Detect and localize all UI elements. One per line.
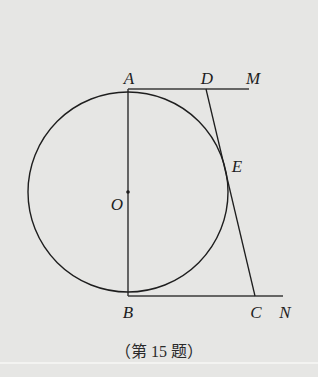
label-b: B — [123, 304, 133, 321]
bottom-divider — [0, 362, 318, 364]
label-d: D — [201, 70, 213, 87]
label-c: C — [250, 304, 261, 321]
label-a: A — [124, 70, 134, 87]
label-n: N — [279, 304, 290, 321]
tangent-dc — [206, 89, 255, 296]
label-e: E — [232, 158, 242, 175]
figure-caption: （第 15 题） — [0, 338, 318, 362]
label-m: M — [246, 70, 260, 87]
geometry-figure: A D M E O B C N （第 15 题） — [0, 0, 318, 377]
label-o: O — [111, 196, 123, 213]
figure-svg — [0, 0, 318, 377]
center-point-o — [126, 190, 130, 194]
